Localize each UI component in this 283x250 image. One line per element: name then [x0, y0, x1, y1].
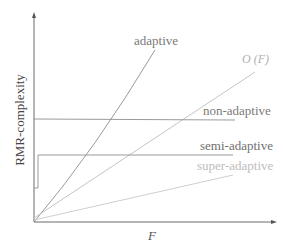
y-axis-label: RMR-complexity: [12, 74, 27, 166]
rmr-complexity-chart: adaptive O (F) non-adaptive semi-adaptiv…: [0, 0, 283, 250]
x-axis-arrow-icon: [271, 220, 277, 224]
label-o-of-f: O (F): [242, 52, 269, 66]
label-adaptive: adaptive: [134, 33, 178, 48]
series-labels: adaptive O (F) non-adaptive semi-adaptiv…: [134, 33, 273, 173]
series-lines: [34, 50, 255, 222]
line-super-adaptive: [34, 175, 233, 220]
y-axis-arrow-icon: [32, 12, 36, 18]
label-super-adaptive: super-adaptive: [197, 158, 273, 173]
x-axis-label: F: [147, 228, 157, 243]
line-non-adaptive: [34, 119, 235, 120]
label-semi-adaptive: semi-adaptive: [200, 138, 273, 153]
label-non-adaptive: non-adaptive: [203, 103, 271, 118]
line-adaptive: [34, 50, 155, 222]
